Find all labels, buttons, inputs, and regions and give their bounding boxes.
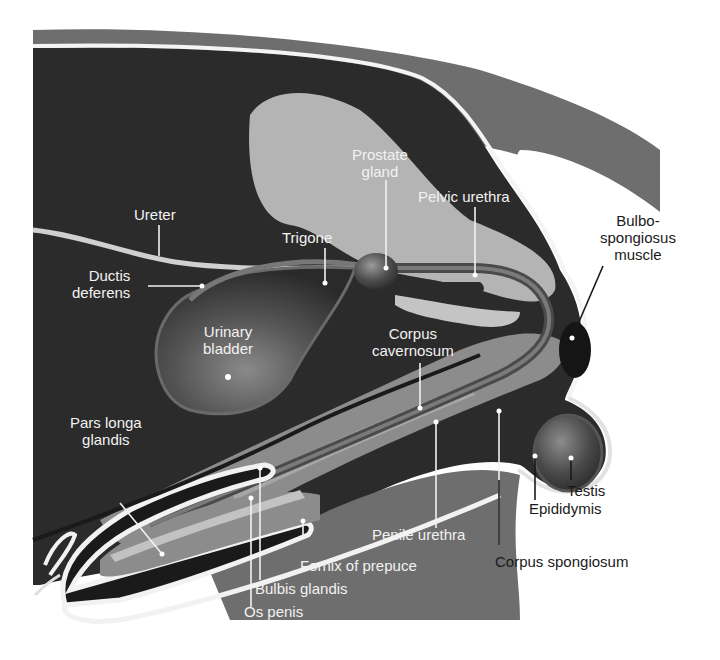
label-bulbospongiosus-muscle: Bulbo- spongiosus muscle: [600, 212, 676, 263]
label-penile-urethra: Penile urethra: [372, 526, 465, 543]
anatomy-diagram: Prostate gland Pelvic urethra Ureter Tri…: [0, 0, 720, 660]
label-pelvic-urethra: Pelvic urethra: [418, 188, 510, 205]
label-corpus-spongiosum: Corpus spongiosum: [495, 553, 628, 570]
label-trigone: Trigone: [282, 229, 332, 246]
label-os-penis: Os penis: [244, 603, 303, 620]
label-pars-longa-glandis: Pars longa glandis: [70, 414, 142, 448]
label-urinary-bladder: Urinary bladder: [203, 323, 253, 357]
label-ductus-deferens: Ductis deferens: [72, 267, 130, 301]
label-bulbis-glandis: Bulbis glandis: [255, 580, 348, 597]
testis: [534, 415, 602, 491]
label-fornix-of-prepuce: Fornix of prepuce: [300, 557, 417, 574]
label-epididymis: Epididymis: [529, 500, 602, 517]
label-testis: Testis: [567, 482, 605, 499]
label-ureter: Ureter: [134, 206, 176, 223]
label-prostate-gland: Prostate gland: [352, 146, 408, 180]
prostate-gland: [354, 253, 398, 289]
label-corpus-cavernosum: Corpus cavernosum: [372, 325, 454, 359]
